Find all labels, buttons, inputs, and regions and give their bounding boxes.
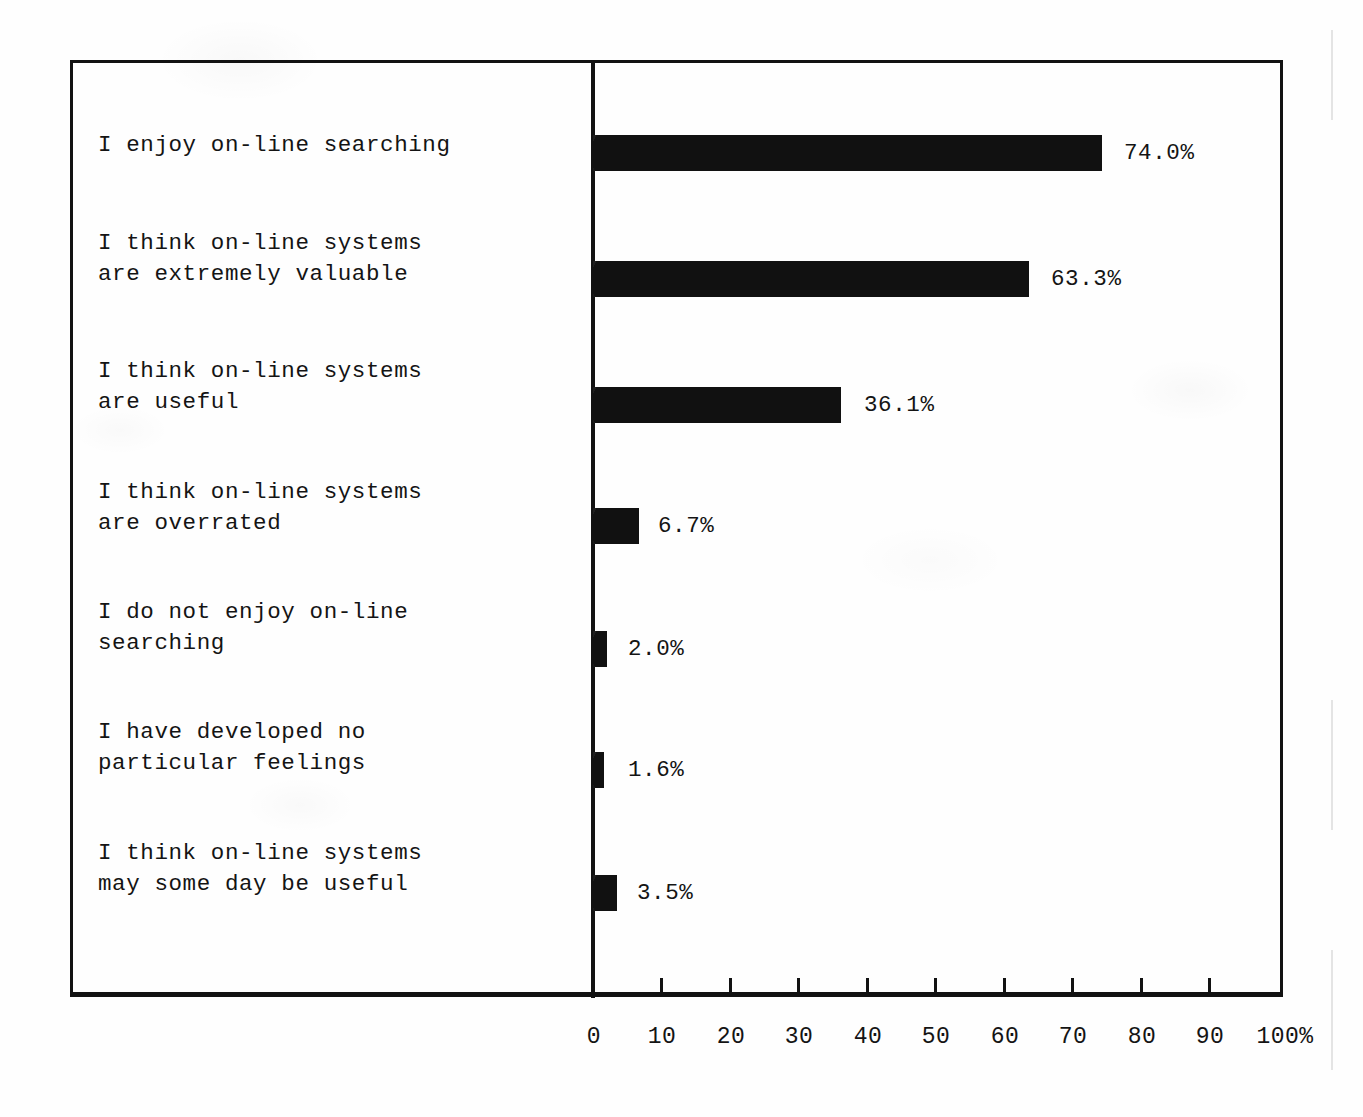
bar[interactable] — [593, 508, 639, 544]
bar[interactable] — [593, 135, 1102, 171]
axis-tick — [934, 978, 937, 995]
bar-value-label: 1.6% — [628, 752, 684, 788]
scan-artifact — [1331, 950, 1333, 1070]
bar-value-label: 3.5% — [637, 875, 693, 911]
chart-row: I do not enjoy on-line searching 2.0% — [0, 597, 1363, 721]
axis-tick-label: 70 — [1059, 1024, 1088, 1050]
axis-tick-label: 0 — [587, 1024, 601, 1050]
chart-row: I think on-line systems are overrated 6.… — [0, 477, 1363, 601]
category-label: I have developed no particular feelings — [98, 717, 568, 779]
axis-tick — [1140, 978, 1143, 995]
axis-tick-label: 50 — [922, 1024, 951, 1050]
axis-tick — [729, 978, 732, 995]
axis-tick-label: 40 — [854, 1024, 883, 1050]
axis-tick-label: 20 — [717, 1024, 746, 1050]
axis-tick — [592, 978, 595, 995]
scan-artifact — [1331, 30, 1333, 120]
axis-tick — [1208, 978, 1211, 995]
axis-tick — [1071, 978, 1074, 995]
axis-tick-label: 30 — [785, 1024, 814, 1050]
axis-tick — [1003, 978, 1006, 995]
chart-row: I enjoy on-line searching 74.0% — [0, 110, 1363, 234]
bar-value-label: 2.0% — [628, 631, 684, 667]
chart-row: I think on-line systems are useful 36.1% — [0, 356, 1363, 480]
bar-value-label: 63.3% — [1051, 261, 1122, 297]
axis-tick-label: 60 — [991, 1024, 1020, 1050]
bar[interactable] — [593, 387, 841, 423]
bar-value-label: 6.7% — [658, 508, 714, 544]
chart-row: I have developed no particular feelings … — [0, 717, 1363, 841]
category-axis-line — [70, 994, 1283, 997]
bar[interactable] — [593, 875, 617, 911]
figure-page: I enjoy on-line searching 74.0% I think … — [0, 0, 1363, 1117]
axis-tick-label: 80 — [1128, 1024, 1157, 1050]
bar[interactable] — [593, 752, 604, 788]
bar-value-label: 74.0% — [1124, 135, 1195, 171]
category-label: I think on-line systems are useful — [98, 356, 568, 418]
axis-tick-label: 10 — [648, 1024, 677, 1050]
category-label: I think on-line systems are extremely va… — [98, 228, 568, 290]
scan-artifact — [1331, 700, 1333, 830]
chart-row: I think on-line systems may some day be … — [0, 838, 1363, 962]
axis-tick-label: 90 — [1196, 1024, 1225, 1050]
category-label: I think on-line systems may some day be … — [98, 838, 568, 900]
axis-tick — [660, 978, 663, 995]
category-label: I do not enjoy on-line searching — [98, 597, 568, 659]
bar[interactable] — [593, 631, 607, 667]
category-label: I think on-line systems are overrated — [98, 477, 568, 539]
axis-tick-label: 100% — [1256, 1024, 1313, 1050]
bar[interactable] — [593, 261, 1029, 297]
chart-row: I think on-line systems are extremely va… — [0, 228, 1363, 352]
axis-tick — [797, 978, 800, 995]
bar-value-label: 36.1% — [864, 387, 935, 423]
category-label: I enjoy on-line searching — [98, 130, 568, 161]
axis-tick — [866, 978, 869, 995]
